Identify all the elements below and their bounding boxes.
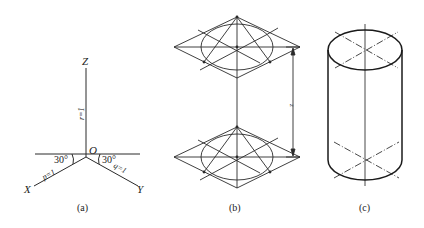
z-axis-label: Z [82, 55, 89, 67]
dimension-label: z [288, 103, 296, 107]
top-oblique-line-1 [200, 35, 266, 70]
x-coefficient-label: p=1 [40, 167, 57, 182]
isometric-diagram: Z O X Y 30° 30° r=1 p=1 q=1 (a) [0, 0, 424, 228]
dimension-arrow-top [291, 48, 295, 55]
z-coefficient-label: r=1 [77, 107, 86, 120]
caption-c: (c) [359, 202, 370, 214]
height-dimension [286, 47, 300, 157]
origin-label: O [89, 144, 97, 156]
x-axis-label: X [23, 183, 32, 195]
top-centerlines [335, 32, 398, 68]
angle-left-label: 30° [54, 154, 68, 165]
angle-arc-left [72, 154, 73, 164]
figure-c-cylinder [328, 24, 402, 186]
caption-b: (b) [229, 202, 241, 214]
caption-a: (a) [77, 202, 88, 214]
dimension-arrow-bottom [291, 149, 295, 156]
figure-b-construction [174, 17, 300, 188]
angle-arc-right [99, 154, 100, 164]
bottom-centerlines [334, 142, 399, 178]
y-axis-label: Y [137, 183, 145, 195]
